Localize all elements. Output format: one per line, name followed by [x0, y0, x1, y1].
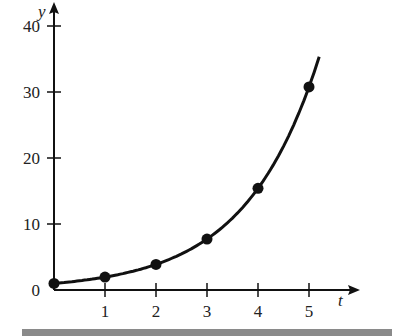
data-point: [202, 234, 213, 245]
x-tick-label: 1: [101, 302, 110, 321]
y-tick-label: 10: [23, 215, 40, 234]
y-tick-label: 30: [23, 83, 40, 102]
y-tick-label: 20: [23, 149, 40, 168]
x-tick-label: 5: [305, 302, 314, 321]
bottom-bar: [22, 329, 392, 336]
y-tick-label: 0: [32, 281, 41, 300]
data-point: [304, 81, 315, 92]
data-curve: [54, 57, 319, 284]
exponential-chart: 12345010203040 t y: [0, 0, 395, 336]
x-tick-label: 2: [152, 302, 161, 321]
data-point: [151, 259, 162, 270]
x-axis-label: t: [338, 291, 344, 310]
data-points: [49, 81, 315, 288]
axes: [49, 2, 360, 295]
data-point: [253, 183, 264, 194]
x-tick-label: 4: [254, 302, 263, 321]
data-point: [49, 278, 60, 289]
y-axis-label: y: [36, 2, 46, 21]
data-point: [100, 272, 111, 283]
x-tick-label: 3: [203, 302, 212, 321]
